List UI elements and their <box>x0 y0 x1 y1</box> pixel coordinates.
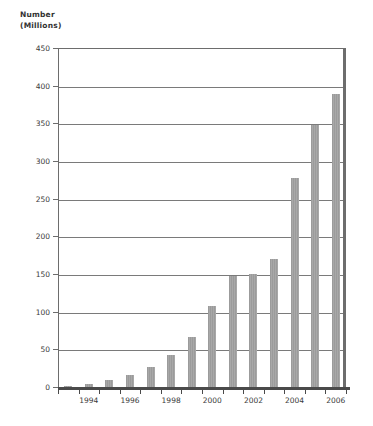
y-axis-tick-label: 100 <box>36 307 50 316</box>
x-axis-tick-mark <box>325 389 326 394</box>
x-axis-tick-label: 1994 <box>79 396 98 405</box>
x-axis-tick-label: 2004 <box>285 396 304 405</box>
x-axis-tick-mark <box>346 389 347 394</box>
x-axis-tick-label: 2006 <box>326 396 345 405</box>
y-axis-tick-label: 400 <box>36 81 50 90</box>
y-axis-tick-label: 200 <box>36 232 50 241</box>
x-axis-tick-mark <box>264 389 265 394</box>
y-axis-labels: 050100150200250300350400450 <box>0 48 58 388</box>
bar <box>167 355 175 387</box>
bar <box>105 380 113 387</box>
x-axis-tick-mark <box>181 389 182 394</box>
x-axis-tick-label: 2000 <box>203 396 222 405</box>
y-axis-tick-label: 50 <box>40 345 50 354</box>
y-axis-title-line1: Number <box>20 10 55 19</box>
x-axis-tick-mark <box>223 389 224 394</box>
x-axis-tick-mark <box>140 389 141 394</box>
x-axis-tick-mark <box>202 389 203 394</box>
bar <box>147 367 155 387</box>
y-axis-tick-label: 350 <box>36 119 50 128</box>
bar <box>126 375 134 387</box>
y-axis-title-line2: (Millions) <box>20 21 62 30</box>
bar <box>229 276 237 387</box>
y-axis-title: Number(Millions) <box>20 9 62 31</box>
x-axis-tick-mark <box>120 389 121 394</box>
x-axis-tick-mark <box>284 389 285 394</box>
x-axis-tick-mark <box>79 389 80 394</box>
y-axis-tick-label: 250 <box>36 194 50 203</box>
bar <box>332 94 340 387</box>
x-axis-tick-mark <box>58 389 59 394</box>
y-axis-tick-label: 300 <box>36 157 50 166</box>
x-axis: 1994199619982000200220042006 <box>58 389 350 423</box>
x-axis-tick-mark <box>99 389 100 394</box>
x-axis-tick-label: 1996 <box>120 396 139 405</box>
bar <box>208 306 216 387</box>
x-axis-tick-label: 2002 <box>244 396 263 405</box>
y-axis-tick-label: 0 <box>45 383 50 392</box>
x-axis-tick-mark <box>305 389 306 394</box>
bar <box>311 125 319 387</box>
bar-series <box>58 48 346 387</box>
bar <box>291 178 299 387</box>
bar <box>188 337 196 387</box>
y-axis-tick-label: 450 <box>36 44 50 53</box>
bar <box>270 259 278 387</box>
x-axis-tick-mark <box>243 389 244 394</box>
y-axis-tick-label: 150 <box>36 270 50 279</box>
bar-chart: Number(Millions) 05010015020025030035040… <box>0 0 373 426</box>
x-axis-tick-label: 1998 <box>162 396 181 405</box>
x-axis-tick-mark <box>161 389 162 394</box>
bar <box>249 274 257 387</box>
